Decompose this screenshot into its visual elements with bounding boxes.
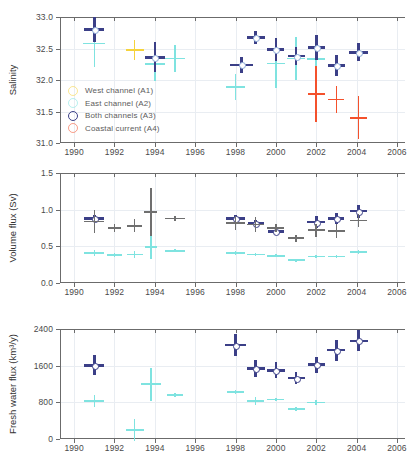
error-bar-vertical [134,219,136,232]
x-tick-label: 2000 [266,443,285,453]
x-tick-top [316,329,317,333]
y-tick [56,17,60,18]
legend-item-3[interactable]: Both channels (A3) [68,110,156,121]
error-bar-vertical [255,397,257,405]
marker-open-circle [314,362,321,369]
legend-label: Coastal current (A4) [85,124,160,133]
x-tick-top [397,17,398,21]
axis-title-panel-3: Fresh water flux (km³/y) [7,334,18,434]
y-tick [56,49,60,50]
legend-item-1[interactable]: West channel (A1) [68,85,153,96]
x-tick-label: 2004 [347,443,366,453]
y-tick [56,439,60,440]
error-bar-vertical [315,66,317,121]
x-tick-label: 1998 [226,287,245,297]
error-bar-vertical [315,400,317,406]
x-tick-label: 2006 [387,147,406,157]
x-tick-top [236,173,237,177]
y-tick [56,246,60,247]
x-tick-top [114,173,115,177]
axis-title-panel-1: Salinity [7,65,18,96]
axis-title-panel-2: Volume flux (Sv) [7,193,18,262]
error-bar-vertical [358,250,360,254]
error-bar-vertical [255,253,257,256]
chart-legend: West channel (A1)East channel (A2)Both c… [68,85,198,135]
y-tick-label: 2400 [0,324,53,334]
error-bar-vertical [235,251,237,255]
marker-open-circle [334,348,341,355]
y-tick-label: 1.5 [0,168,53,178]
error-bar-vertical [295,259,297,262]
y-tick-label: 0.0 [0,278,53,288]
legend-item-4[interactable]: Coastal current (A4) [68,123,160,134]
axis-top-panel-3 [60,329,405,330]
plot-area-panel-3 [60,329,405,439]
y-tick [56,143,60,144]
error-bar-vertical [134,419,136,441]
x-tick-label: 2006 [387,443,406,453]
plot-area-panel-2 [60,173,405,283]
x-tick-top [276,17,277,21]
y-tick-label: 32.5 [0,44,53,54]
axis-top-panel-2 [60,173,405,174]
marker-open-circle [233,343,240,350]
x-tick-top [195,329,196,333]
x-tick-top [397,329,398,333]
error-bar-vertical [94,395,96,408]
y-tick-label: 33.0 [0,12,53,22]
error-bar-vertical [94,210,96,233]
marker-open-circle [92,363,99,370]
legend-marker-west-channel [68,86,78,96]
y-tick [56,210,60,211]
x-tick-top [316,17,317,21]
marker-open-circle [314,45,321,52]
error-bar-vertical [134,40,136,60]
y-tick-label: 0 [0,434,53,444]
error-bar-vertical [255,217,257,232]
error-bar-vertical [275,254,277,257]
y-tick [56,112,60,113]
legend-marker-east-channel [68,98,78,108]
x-tick-top [236,329,237,333]
x-tick-top [276,173,277,177]
x-tick-label: 2006 [387,287,406,297]
marker-open-circle [92,27,99,34]
x-tick-label: 1996 [186,443,205,453]
x-tick-top [74,329,75,333]
x-tick-top [155,17,156,21]
x-tick-label: 1994 [145,443,164,453]
error-bar-vertical [235,74,237,100]
legend-label: West channel (A1) [85,86,153,95]
marker-open-circle [356,50,363,57]
error-bar-vertical [114,253,116,257]
x-tick-top [195,17,196,21]
x-tick-top [397,173,398,177]
x-tick-top [195,173,196,177]
error-bar-vertical [174,216,176,220]
error-bar-vertical [94,250,96,256]
legend-marker-coastal-current [68,123,78,133]
x-tick-label: 1998 [226,147,245,157]
legend-item-2[interactable]: East channel (A2) [68,98,151,109]
x-tick-top [74,17,75,21]
x-tick-label: 1996 [186,287,205,297]
x-tick-top [155,173,156,177]
x-tick-label: 2002 [307,147,326,157]
y-tick [56,329,60,330]
marker-open-circle [294,54,301,61]
x-tick-top [316,173,317,177]
x-tick-label: 1990 [64,443,83,453]
x-tick-top [114,17,115,21]
error-bar-vertical [150,235,152,258]
x-tick-label: 2000 [266,147,285,157]
y-tick [56,80,60,81]
x-tick-label: 1998 [226,443,245,453]
x-tick-label: 1996 [186,147,205,157]
error-bar-vertical [150,188,152,236]
y-tick [56,283,60,284]
x-tick-top [276,329,277,333]
legend-label: Both channels (A3) [85,111,156,120]
x-tick-label: 1990 [64,147,83,157]
error-bar-vertical [134,251,136,258]
error-bar-vertical [336,86,338,112]
